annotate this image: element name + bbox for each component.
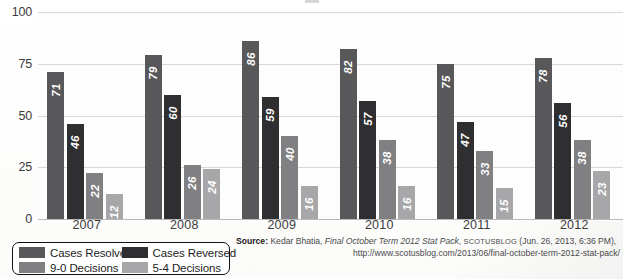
bar-2007-cases-resolved[interactable]: 71 [47, 72, 64, 219]
bar-group-2009: 86594016 [242, 12, 318, 219]
bar-value-wrap: 59 [262, 100, 279, 130]
bar-2008-cases-reversed[interactable]: 60 [164, 95, 181, 219]
bar-value-label: 26 [186, 176, 198, 190]
bar-2007-cases-reversed[interactable]: 46 [67, 124, 84, 219]
source-work-title: Final October Term 2012 Stat Pack [325, 236, 459, 246]
legend-item-9-0-decisions[interactable]: 9-0 Decisions [19, 262, 122, 274]
bar-2011-cases-reversed[interactable]: 47 [457, 122, 474, 219]
legend-swatch-9-0-decisions [19, 262, 45, 273]
bar-2009-cases-reversed[interactable]: 59 [262, 97, 279, 219]
bar-value-wrap: 16 [398, 189, 415, 219]
chart-legend: Cases Resolved Cases Reversed 9-0 Decisi… [12, 242, 230, 275]
bar-2008-5-4-decisions[interactable]: 24 [203, 169, 220, 219]
legend-swatch-cases-reversed [122, 247, 148, 258]
bar-2009-cases-resolved[interactable]: 86 [242, 41, 259, 219]
bar-value-wrap: 79 [145, 58, 162, 88]
source-line-1: Source: Kedar Bhatia, Final October Term… [236, 236, 620, 248]
legend-label-cases-resolved: Cases Resolved [50, 247, 132, 259]
x-axis-label-2011: 2011 [428, 218, 526, 232]
bar-chart: 7146221220077960262420088659401620098257… [0, 0, 623, 232]
bar-value-label: 59 [264, 108, 276, 122]
bar-2011-9-0-decisions[interactable]: 33 [476, 151, 493, 219]
bar-value-wrap: 15 [496, 191, 513, 219]
bar-value-label: 56 [557, 114, 569, 128]
source-comma: , [459, 236, 461, 246]
legend-label-5-4-decisions: 5-4 Decisions [153, 262, 221, 274]
bar-value-wrap: 33 [476, 154, 493, 184]
bar-group-2007: 71462212 [47, 12, 123, 219]
legend-swatch-cases-resolved [19, 247, 45, 258]
legend-label-cases-reversed: Cases Reversed [153, 247, 237, 259]
bar-value-wrap: 46 [67, 127, 84, 157]
bar-value-wrap: 40 [281, 139, 298, 169]
bar-value-label: 40 [284, 147, 296, 161]
bar-2010-9-0-decisions[interactable]: 38 [379, 140, 396, 219]
bar-value-label: 79 [147, 67, 159, 81]
chart-page: 7146221220077960262420088659401620098257… [0, 0, 623, 279]
bar-2010-cases-resolved[interactable]: 82 [340, 49, 357, 219]
source-date: (Jun. 26, 2013, 6:36 PM), [519, 236, 616, 246]
bar-2012-5-4-decisions[interactable]: 23 [593, 171, 610, 219]
bar-2008-9-0-decisions[interactable]: 26 [184, 165, 201, 219]
bar-value-label: 38 [381, 152, 393, 166]
bar-value-wrap: 86 [242, 44, 259, 74]
legend-label-9-0-decisions: 9-0 Decisions [50, 262, 118, 274]
bar-value-wrap: 47 [457, 125, 474, 155]
x-axis-label-2012: 2012 [526, 218, 623, 232]
bar-2012-9-0-decisions[interactable]: 38 [574, 140, 591, 219]
x-axis-label-2008: 2008 [136, 218, 234, 232]
bar-value-wrap: 71 [47, 75, 64, 105]
x-axis-label-2010: 2010 [331, 218, 429, 232]
bar-value-label: 86 [245, 52, 257, 66]
bar-value-wrap: 57 [359, 104, 376, 134]
bar-value-label: 12 [108, 205, 120, 219]
source-url[interactable]: http://www.scotusblog.com/2013/06/final-… [236, 248, 620, 260]
bar-group-2012: 78563823 [535, 12, 611, 219]
bar-value-label: 24 [206, 181, 218, 195]
legend-item-cases-reversed[interactable]: Cases Reversed [122, 247, 225, 259]
y-axis-tick-0: 0 [0, 212, 32, 226]
bar-value-label: 16 [303, 197, 315, 211]
bar-2011-cases-resolved[interactable]: 75 [437, 64, 454, 219]
bar-value-wrap: 23 [593, 174, 610, 204]
legend-item-cases-resolved[interactable]: Cases Resolved [19, 247, 122, 259]
bar-2009-5-4-decisions[interactable]: 16 [301, 186, 318, 219]
y-axis-tick-100: 100 [0, 5, 32, 19]
bar-value-wrap: 22 [86, 176, 103, 206]
bar-2010-5-4-decisions[interactable]: 16 [398, 186, 415, 219]
x-axis-label-2009: 2009 [233, 218, 331, 232]
x-axis-label-2007: 2007 [38, 218, 136, 232]
bar-2009-9-0-decisions[interactable]: 40 [281, 136, 298, 219]
bar-value-label: 78 [537, 69, 549, 83]
bar-2011-5-4-decisions[interactable]: 15 [496, 188, 513, 219]
bar-value-label: 33 [479, 162, 491, 176]
y-axis-tick-25: 25 [0, 160, 32, 174]
bar-value-label: 23 [596, 183, 608, 197]
legend-row: 9-0 Decisions 5-4 Decisions [19, 261, 224, 274]
bar-2012-cases-reversed[interactable]: 56 [554, 103, 571, 219]
bar-value-wrap: 38 [379, 143, 396, 173]
bar-value-wrap: 82 [340, 52, 357, 82]
legend-item-5-4-decisions[interactable]: 5-4 Decisions [122, 262, 225, 274]
bar-group-2008: 79602624 [145, 12, 221, 219]
bar-value-wrap: 24 [203, 172, 220, 202]
y-axis-tick-75: 75 [0, 57, 32, 71]
bar-2007-5-4-decisions[interactable]: 12 [106, 194, 123, 219]
bar-value-label: 16 [401, 197, 413, 211]
bar-value-label: 46 [69, 135, 81, 149]
bar-group-2010: 82573816 [340, 12, 416, 219]
bar-value-label: 82 [342, 60, 354, 74]
bar-2010-cases-reversed[interactable]: 57 [359, 101, 376, 219]
bar-value-wrap: 12 [106, 197, 123, 219]
bar-group-2011: 75473315 [437, 12, 513, 219]
bar-2008-cases-resolved[interactable]: 79 [145, 55, 162, 219]
source-publication: SCOTUSBLOG [464, 237, 517, 246]
bar-value-label: 57 [362, 112, 374, 126]
y-axis-tick-50: 50 [0, 109, 32, 123]
legend-row: Cases Resolved Cases Reversed [19, 246, 224, 259]
legend-swatch-5-4-decisions [122, 262, 148, 273]
bar-value-label: 75 [440, 75, 452, 89]
bar-2007-9-0-decisions[interactable]: 22 [86, 173, 103, 219]
source-author: Kedar Bhatia, [270, 236, 322, 246]
bar-2012-cases-resolved[interactable]: 78 [535, 58, 552, 219]
